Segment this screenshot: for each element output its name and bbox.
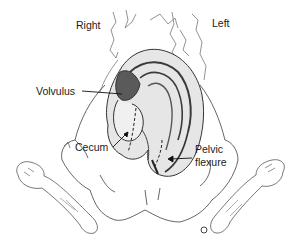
label-volvulus: Volvulus bbox=[36, 85, 75, 97]
large-colon bbox=[107, 49, 204, 176]
right-femur-bone bbox=[17, 162, 98, 234]
ilium-mark bbox=[64, 142, 70, 148]
label-pelvic-flexure-line2: flexure bbox=[195, 156, 227, 168]
label-cecum: Cecum bbox=[75, 141, 108, 153]
tail-vertebra-mark bbox=[201, 227, 207, 233]
anatomy-illustration bbox=[0, 0, 299, 250]
diagram-canvas: Right Left Volvulus Cecum Pelvic flexure bbox=[0, 0, 299, 250]
left-femur-bone bbox=[211, 160, 285, 233]
orientation-label-left: Left bbox=[212, 17, 230, 29]
orientation-label-right: Right bbox=[76, 19, 101, 31]
label-pelvic-flexure-line1: Pelvic bbox=[195, 143, 223, 155]
